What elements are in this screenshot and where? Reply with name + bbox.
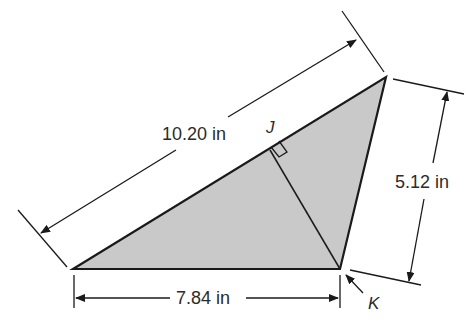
extension-line-top-right xyxy=(393,79,464,94)
label-side: 5.12 in xyxy=(395,172,449,192)
dim-hypotenuse-upper xyxy=(228,40,356,117)
label-K: K xyxy=(368,294,380,313)
dim-side-lower xyxy=(409,199,424,281)
label-base: 7.84 in xyxy=(176,288,230,308)
extension-line-left xyxy=(18,210,67,267)
label-hypotenuse: 10.20 in xyxy=(162,124,226,144)
dim-side-upper xyxy=(433,92,447,163)
extension-line-top xyxy=(342,11,384,72)
shaded-triangle xyxy=(73,77,386,269)
triangle-diagram: 10.20 in 7.84 in 5.12 in J K xyxy=(0,0,476,326)
label-J: J xyxy=(265,118,275,137)
diagram-canvas: 10.20 in 7.84 in 5.12 in J K xyxy=(0,0,476,326)
pointer-K xyxy=(346,275,363,293)
